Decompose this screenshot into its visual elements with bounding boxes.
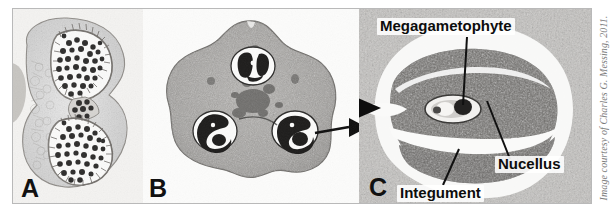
panel-a: A: [13, 9, 143, 203]
image-credit: Image courtesy of Charles G. Messing, 20…: [594, 8, 612, 208]
panel-letter-b: B: [149, 176, 167, 201]
label-nucellus: Nucellus: [495, 156, 564, 173]
figure-plate-frame: A: [12, 8, 592, 204]
micrograph-figure: A: [0, 0, 613, 215]
panel-c: Megagametophyte Nucellus Integument C: [359, 9, 591, 203]
panel-letter-a: A: [21, 176, 39, 201]
label-integument: Integument: [397, 185, 484, 202]
panel-letter-c: C: [369, 175, 387, 200]
panel-c-micrograph: [359, 9, 591, 203]
panel-b-micrograph: [143, 9, 359, 203]
image-credit-text: Image courtesy of Charles G. Messing, 20…: [598, 16, 609, 201]
panel-b: B: [143, 9, 359, 203]
megagametophyte-structure: [425, 95, 481, 123]
label-megagametophyte: Megagametophyte: [377, 18, 515, 35]
